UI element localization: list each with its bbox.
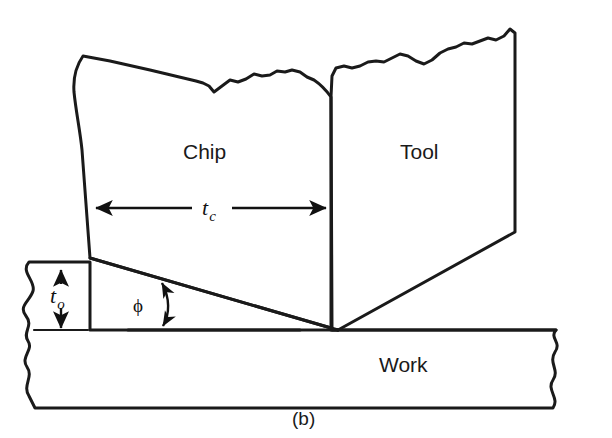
chip-thickness-dimension: tc [96, 195, 326, 224]
chip-shape [74, 56, 338, 330]
depth-of-cut-dimension: to [34, 270, 88, 330]
shear-plane-line [90, 258, 338, 330]
shear-angle-arc-arrow [162, 283, 168, 326]
figure-caption: (b) [292, 408, 315, 429]
workpiece-shape [23, 262, 557, 408]
chip-thickness-label: tc [202, 195, 216, 224]
work-label: Work [379, 353, 428, 376]
shear-angle-label: ϕ [133, 295, 143, 316]
depth-of-cut-label: to [50, 283, 65, 312]
tool-shape [331, 29, 515, 330]
chip-label: Chip [183, 140, 226, 163]
tool-label: Tool [400, 140, 439, 163]
orthogonal-cutting-diagram: tc to ϕ Chip Tool Work (b) [0, 0, 612, 438]
diagram-canvas: tc to ϕ Chip Tool Work (b) [0, 0, 612, 438]
shear-angle-dimension: ϕ [128, 283, 300, 330]
